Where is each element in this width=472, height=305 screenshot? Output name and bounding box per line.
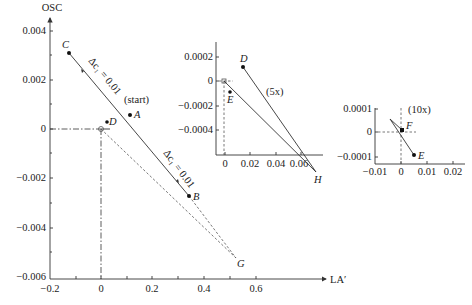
point-C: [67, 51, 71, 55]
svg-text:0.01: 0.01: [418, 166, 436, 177]
svg-text:0.4: 0.4: [197, 283, 211, 294]
label-G: G: [237, 258, 245, 269]
inset10-label-E: E: [417, 150, 425, 161]
svg-text:0: 0: [208, 75, 213, 86]
inset-10x: 0.0001 0 −0.0001 −0.01 0 0.01 0.02 F E (…: [337, 103, 465, 177]
svg-text:−0.2: −0.2: [40, 283, 59, 294]
inset5-label-H: H: [313, 174, 323, 185]
svg-text:0: 0: [41, 123, 46, 134]
svg-text:0.2: 0.2: [145, 283, 158, 294]
svg-text:−0.004: −0.004: [16, 222, 46, 233]
svg-text:0: 0: [222, 158, 227, 169]
point-B: [187, 194, 191, 198]
inset5-title: (5x): [266, 86, 284, 98]
delta-annotation-lower: Δc₁ = 0.01: [161, 148, 197, 190]
label-C: C: [62, 39, 70, 50]
svg-text:−0.0001: −0.0001: [337, 151, 372, 162]
inset10-title: (10x): [408, 104, 431, 116]
inset5-label-E: E: [226, 94, 234, 105]
trajectory-line: [69, 53, 189, 196]
delta-annotation-upper: Δc₁ = 0.01: [86, 55, 123, 96]
svg-text:0.6: 0.6: [249, 283, 262, 294]
label-A: A: [133, 109, 141, 120]
svg-text:0.0001: 0.0001: [343, 103, 372, 114]
inset10-point-E: [412, 153, 416, 157]
inset10-label-F: F: [405, 120, 413, 131]
svg-text:0.02: 0.02: [444, 166, 462, 177]
svg-text:−0.006: −0.006: [16, 271, 46, 282]
svg-text:−0.0002: −0.0002: [178, 100, 213, 111]
label-B: B: [193, 191, 200, 202]
figure: OSC LA′ 0.004 0.002 0 −0.002 −0.004 −0.0…: [0, 0, 472, 305]
svg-text:0.04: 0.04: [267, 158, 286, 169]
point-A: [128, 113, 132, 117]
x-axis-label: LA′: [330, 274, 346, 285]
inset10-point-F: [400, 128, 404, 132]
svg-text:0.06: 0.06: [290, 158, 308, 169]
inset5-line-D-H: [243, 67, 316, 172]
label-D: D: [108, 116, 117, 127]
inset5-label-D: D: [239, 53, 248, 64]
svg-text:−0.0004: −0.0004: [178, 124, 214, 135]
inset5-point-D: [241, 65, 245, 69]
svg-text:0: 0: [367, 126, 372, 137]
dashed-B-to-G: [189, 196, 236, 258]
svg-text:−0.01: −0.01: [363, 166, 387, 177]
inset-5x: 0.0002 0 −0.0002 −0.0004 0 0.02 0.04 0.0…: [178, 42, 323, 185]
main-plot: OSC LA′ 0.004 0.002 0 −0.002 −0.004 −0.0…: [16, 2, 346, 294]
svg-text:0.004: 0.004: [22, 25, 46, 36]
start-note: (start): [124, 94, 150, 106]
svg-text:0.02: 0.02: [241, 158, 259, 169]
y-axis-label: OSC: [42, 2, 62, 13]
svg-text:0: 0: [398, 166, 403, 177]
y-ticks: 0.004 0.002 0 −0.002 −0.004 −0.006: [16, 25, 53, 282]
svg-text:0.002: 0.002: [22, 74, 46, 85]
svg-text:0.0002: 0.0002: [184, 51, 213, 62]
svg-text:−0.002: −0.002: [16, 172, 46, 183]
svg-text:0: 0: [98, 283, 103, 294]
